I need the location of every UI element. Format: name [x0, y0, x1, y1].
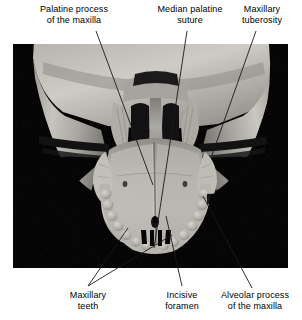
label-median-palatine-suture-line2: suture [157, 15, 222, 26]
label-maxillary-teeth: Maxillary teeth [70, 290, 106, 312]
label-palatine-process-line1: Palatine process [40, 4, 108, 14]
label-palatine-process-line2: of the maxilla [40, 15, 108, 26]
label-alveolar-process: Alveolar process of the maxilla [221, 290, 289, 312]
label-alveolar-process-line1: Alveolar process [221, 290, 289, 300]
label-median-palatine-suture: Median palatine suture [157, 4, 222, 26]
label-maxillary-tuberosity-line1: Maxillary [244, 4, 280, 14]
label-incisive-foramen-line2: foramen [165, 301, 199, 312]
label-incisive-foramen-line1: Incisive [167, 290, 198, 300]
label-maxillary-tuberosity: Maxillary tuberosity [242, 4, 282, 26]
label-alveolar-process-line2: of the maxilla [221, 301, 289, 312]
label-maxillary-teeth-line1: Maxillary [70, 290, 106, 300]
skull-photograph [13, 44, 288, 268]
anatomy-figure: Palatine process of the maxilla Median p… [0, 0, 302, 320]
skull-image [13, 44, 288, 268]
label-palatine-process: Palatine process of the maxilla [40, 4, 108, 26]
label-maxillary-teeth-line2: teeth [70, 301, 106, 312]
label-median-palatine-suture-line1: Median palatine [157, 4, 222, 14]
label-incisive-foramen: Incisive foramen [165, 290, 199, 312]
label-maxillary-tuberosity-line2: tuberosity [242, 15, 282, 26]
